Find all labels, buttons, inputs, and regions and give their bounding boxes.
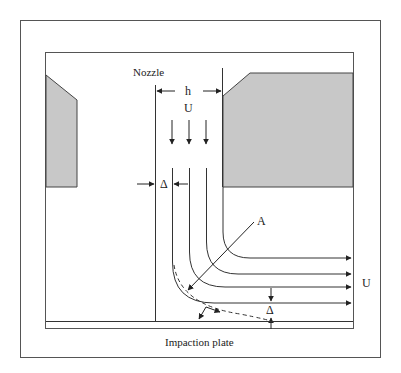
boundary-layer-dashed bbox=[174, 265, 270, 321]
right-nozzle-block bbox=[223, 73, 353, 187]
delta-plate-label: Δ bbox=[266, 303, 274, 318]
velocity-in-label: U bbox=[184, 101, 193, 116]
streamline-4 bbox=[223, 187, 351, 258]
streamline-1 bbox=[173, 168, 352, 303]
section-label-a: A bbox=[257, 214, 266, 229]
left-nozzle-block bbox=[46, 75, 77, 187]
impaction-diagram bbox=[0, 0, 401, 373]
angle-arrow-1 bbox=[199, 307, 206, 319]
velocity-out-label: U bbox=[362, 276, 371, 291]
delta-nozzle-label: Δ bbox=[160, 177, 168, 192]
outer-frame bbox=[21, 21, 381, 358]
plate-label: Impaction plate bbox=[165, 336, 234, 348]
section-line-a bbox=[188, 222, 254, 290]
width-label: h bbox=[185, 84, 191, 99]
nozzle-label: Nozzle bbox=[133, 66, 164, 78]
